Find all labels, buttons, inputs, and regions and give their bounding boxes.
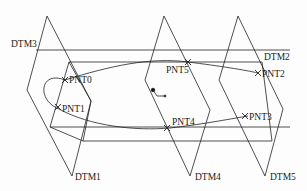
label-pnt2: PNT2 [262,70,285,80]
datum-diagram: DTM3 DTM2 DTM1 DTM4 DTM5 PNT0 PNT1 PNT2 … [0,0,307,191]
label-dtm4: DTM4 [195,173,221,183]
label-pnt5: PNT5 [166,66,189,76]
label-pnt1: PNT1 [62,105,85,115]
datum-plane-dtm5 [219,16,283,176]
label-dtm3: DTM3 [11,40,37,50]
datum-plane-dtm4 [145,16,210,176]
label-pnt4: PNT4 [172,118,195,128]
label-dtm1: DTM1 [75,173,101,183]
label-pnt3: PNT3 [249,113,272,123]
label-dtm2: DTM2 [264,53,290,63]
pnt2-marker-icon [255,70,261,76]
label-dtm5: DTM5 [270,173,296,183]
origin-marker [151,88,166,97]
label-pnt0: PNT0 [69,76,92,86]
pnt0-marker-icon [62,77,68,83]
diagram-graphics [0,0,307,191]
